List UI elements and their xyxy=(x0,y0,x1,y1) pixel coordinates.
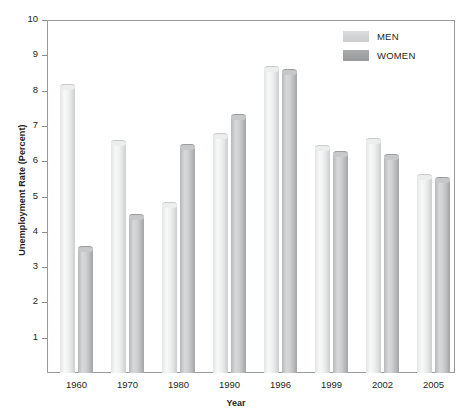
y-axis-tick-label: 1 xyxy=(0,331,38,342)
bar-cap xyxy=(111,140,127,146)
bar-women-1990 xyxy=(231,114,247,373)
bar-cap xyxy=(264,66,280,72)
bar-cap xyxy=(162,202,178,208)
legend-item-men: MEN xyxy=(343,28,443,44)
bar-women-1960 xyxy=(78,246,94,373)
bar-men-1960 xyxy=(60,84,76,373)
x-axis-label-1960: 1960 xyxy=(52,379,102,390)
bar-men-1999 xyxy=(315,145,331,373)
bar-body xyxy=(417,177,433,373)
bar-body xyxy=(111,143,127,373)
bar-women-2002 xyxy=(384,154,400,373)
y-axis-tick-label: 6 xyxy=(0,154,38,165)
bar-body xyxy=(435,180,451,373)
bar-body xyxy=(78,249,94,373)
bar-body xyxy=(264,69,280,373)
bar-body xyxy=(180,147,196,373)
bar-body xyxy=(366,141,382,373)
bar-cap xyxy=(180,144,196,150)
y-axis-tick-label: 5 xyxy=(0,190,38,201)
legend-swatch-men-icon xyxy=(343,31,369,42)
bar-women-1996 xyxy=(282,69,298,373)
bars-layer xyxy=(47,20,455,373)
y-axis-tick-label: 10 xyxy=(0,13,38,24)
bar-cap xyxy=(60,84,76,90)
y-axis-tick-label: 4 xyxy=(0,225,38,236)
bar-body xyxy=(333,154,349,373)
legend-swatch-women-icon xyxy=(343,50,369,61)
bar-women-1970 xyxy=(129,214,145,373)
bar-body xyxy=(315,148,331,373)
bar-cap xyxy=(78,246,94,252)
bar-women-1980 xyxy=(180,144,196,373)
bar-cap xyxy=(333,151,349,157)
x-axis-label-1970: 1970 xyxy=(103,379,153,390)
bar-cap xyxy=(315,145,331,151)
bar-body xyxy=(213,136,229,373)
bar-cap xyxy=(213,133,229,139)
bar-body xyxy=(60,87,76,373)
x-axis-label-1999: 1999 xyxy=(307,379,357,390)
y-axis-tick-label: 3 xyxy=(0,260,38,271)
bar-cap xyxy=(282,69,298,75)
bar-body xyxy=(162,205,178,373)
bar-body xyxy=(129,217,145,373)
bar-men-1990 xyxy=(213,133,229,373)
bar-women-2005 xyxy=(435,177,451,373)
y-axis-tick-label: 8 xyxy=(0,84,38,95)
bar-cap xyxy=(366,138,382,144)
legend-item-women: WOMEN xyxy=(343,47,443,63)
bar-men-1980 xyxy=(162,202,178,373)
x-axis-label-1990: 1990 xyxy=(205,379,255,390)
bar-men-2002 xyxy=(366,138,382,373)
bar-body xyxy=(282,72,298,373)
bar-cap xyxy=(384,154,400,160)
legend-label-women: WOMEN xyxy=(377,50,415,61)
bar-cap xyxy=(231,114,247,120)
x-axis-label-2005: 2005 xyxy=(409,379,459,390)
x-axis-label-2002: 2002 xyxy=(358,379,408,390)
bar-women-1999 xyxy=(333,151,349,373)
x-axis-label-1980: 1980 xyxy=(154,379,204,390)
bar-cap xyxy=(435,177,451,183)
bar-men-2005 xyxy=(417,174,433,373)
bar-cap xyxy=(129,214,145,220)
bar-body xyxy=(384,157,400,373)
chart-legend: MEN WOMEN xyxy=(343,28,443,66)
bar-men-1970 xyxy=(111,140,127,373)
legend-label-men: MEN xyxy=(377,31,399,42)
bar-body xyxy=(231,117,247,373)
bar-men-1996 xyxy=(264,66,280,373)
unemployment-rate-bar-chart: Unemployment Rate (Percent) 12345678910 … xyxy=(0,0,472,419)
y-axis-tick-label: 7 xyxy=(0,119,38,130)
y-axis-tick-label: 9 xyxy=(0,48,38,59)
x-axis-label-1996: 1996 xyxy=(256,379,306,390)
x-axis-title: Year xyxy=(0,398,472,408)
y-axis-tick-label: 2 xyxy=(0,295,38,306)
bar-cap xyxy=(417,174,433,180)
